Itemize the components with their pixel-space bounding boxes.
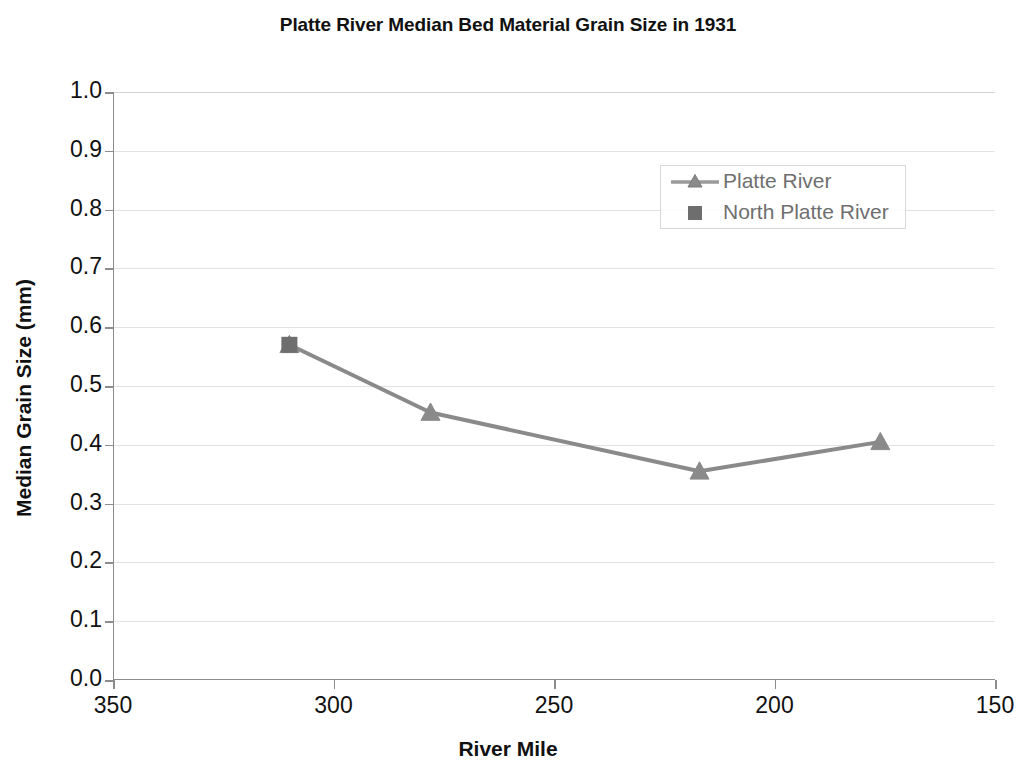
y-tick-mark	[105, 445, 114, 447]
x-tick-mark	[554, 680, 556, 689]
gridline-y	[114, 386, 995, 387]
y-tick-label: 0.9	[28, 136, 102, 163]
y-tick-label: 0.2	[28, 547, 102, 574]
gridline-y	[114, 327, 995, 328]
gridline-y	[114, 151, 995, 152]
chart-legend: Platte River North Platte River	[660, 165, 906, 229]
y-tick-mark	[105, 562, 114, 564]
legend-key-square-icon	[669, 197, 721, 229]
legend-key-line-triangle-icon	[669, 166, 721, 198]
gridline-y	[114, 621, 995, 622]
y-tick-mark	[105, 621, 114, 623]
x-tick-label: 350	[68, 692, 158, 719]
chart-title: Platte River Median Bed Material Grain S…	[0, 14, 1016, 36]
y-tick-label: 0.3	[28, 489, 102, 516]
y-tick-mark	[105, 92, 114, 94]
y-tick-mark	[105, 504, 114, 506]
x-axis-title: River Mile	[0, 737, 1016, 761]
legend-item-platte-river: Platte River	[661, 166, 905, 198]
x-tick-mark	[334, 680, 336, 689]
x-tick-label: 250	[509, 692, 599, 719]
y-tick-label: 0.8	[28, 195, 102, 222]
x-tick-label: 300	[289, 692, 379, 719]
x-tick-mark	[775, 680, 777, 689]
x-tick-mark	[995, 680, 997, 689]
gridline-y	[114, 445, 995, 446]
chart-figure: Platte River Median Bed Material Grain S…	[0, 0, 1016, 765]
y-tick-label: 0.4	[28, 430, 102, 457]
y-tick-mark	[105, 386, 114, 388]
legend-label-platte-river: Platte River	[723, 169, 832, 193]
x-tick-label: 200	[730, 692, 820, 719]
gridline-y	[114, 562, 995, 563]
y-tick-label: 0.7	[28, 253, 102, 280]
y-tick-mark	[105, 327, 114, 329]
gridline-y	[114, 268, 995, 269]
y-axis-title: Median Grain Size (mm)	[12, 188, 36, 608]
x-tick-mark	[113, 680, 115, 689]
y-tick-label: 0.0	[28, 665, 102, 692]
x-tick-label: 150	[950, 692, 1016, 719]
legend-label-north-platte-river: North Platte River	[723, 200, 889, 224]
y-tick-label: 0.6	[28, 312, 102, 339]
gridline-y	[114, 92, 995, 93]
legend-item-north-platte-river: North Platte River	[661, 197, 905, 229]
y-tick-mark	[105, 268, 114, 270]
y-tick-label: 0.5	[28, 371, 102, 398]
y-tick-mark	[105, 210, 114, 212]
y-tick-label: 0.1	[28, 606, 102, 633]
y-tick-mark	[105, 151, 114, 153]
y-tick-label: 1.0	[28, 77, 102, 104]
gridline-y	[114, 504, 995, 505]
